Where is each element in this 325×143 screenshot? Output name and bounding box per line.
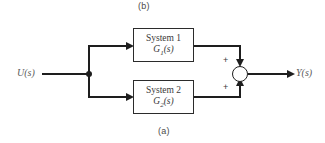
input-signal-label: U(s) [17,67,35,78]
block-system1-tf-arg: (s) [164,44,174,54]
summing-junction-sign-bottom: + [223,83,228,92]
block-system2-transfer-function: G2(s) [153,96,173,109]
wire-output [248,73,289,75]
block-system2-tf-arg: (s) [164,96,174,106]
figure-caption-b: (b) [138,1,150,11]
wire-bottom-into-sum [239,86,241,97]
block-system2-title: System 2 [146,85,181,96]
wire-system1-out [194,45,241,47]
wire-input-trunk [42,73,90,75]
block-system2: System 2 G2(s) [133,80,194,114]
wire-system2-out [194,96,241,98]
summing-junction-sign-top: + [223,56,228,65]
block-system1-title: System 1 [146,33,181,44]
block-system1: System 1 G1(s) [133,28,194,62]
block-diagram-figure: (b) (a) U(s) Y(s) System 1 G1(s) System … [0,0,325,143]
wire-bottom-branch-in [88,96,127,98]
wire-top-branch-in [88,45,127,47]
block-system1-transfer-function: G1(s) [153,44,173,57]
summing-junction [232,66,248,82]
arrow-output-icon [287,70,295,78]
output-signal-label: Y(s) [296,67,312,78]
branch-node-dot [86,71,92,77]
figure-caption-a: (a) [158,126,170,136]
